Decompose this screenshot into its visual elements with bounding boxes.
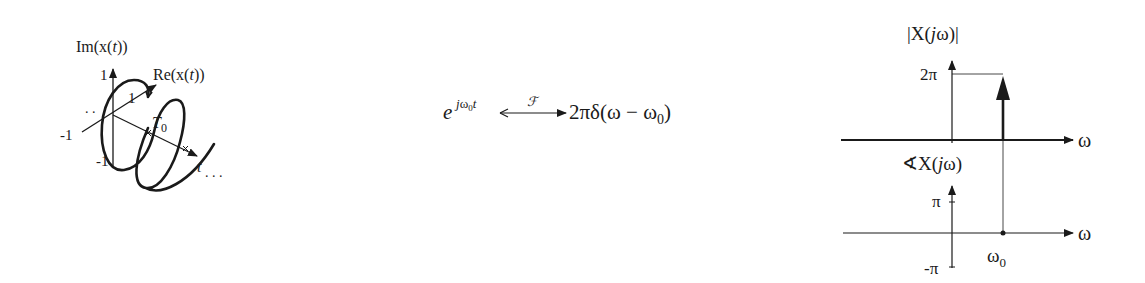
re-axis-label: Re(x(t)) xyxy=(153,66,205,84)
phase-x-label: ω xyxy=(1078,222,1091,244)
magnitude-plot: |X(jω)| 2π ω xyxy=(841,23,1091,233)
magnitude-x-label: ω xyxy=(1078,129,1091,151)
formula-exponent: jω0t xyxy=(454,96,477,113)
helix-plot: Im(x(t)) Re(x(t)) 1 -1 1 -1 T0 t . . . .… xyxy=(60,38,223,190)
im-axis-label: Im(x(t)) xyxy=(76,38,128,56)
time-axis-label: t xyxy=(197,158,202,175)
phase-title: ∢X(jω) xyxy=(902,153,962,175)
fourier-pair-formula: e jω0t ℱ 2πδ(ω − ω0) xyxy=(443,94,671,127)
im-tick-pos: 1 xyxy=(100,67,108,83)
phase-y-tick-pos: π xyxy=(932,192,941,211)
ellipsis-right: . . . xyxy=(205,165,223,180)
im-tick-neg: -1 xyxy=(96,153,109,169)
phase-plot: ∢X(jω) π -π ω ω0 xyxy=(843,153,1091,278)
magnitude-y-tick: 2π xyxy=(920,65,938,84)
phase-point-omega0 xyxy=(1001,231,1006,236)
magnitude-title: |X(jω)| xyxy=(907,23,959,45)
impulse-arrowhead xyxy=(996,76,1010,100)
ellipsis-left: . . xyxy=(85,101,96,116)
diagram-canvas: Im(x(t)) Re(x(t)) 1 -1 1 -1 T0 t . . . .… xyxy=(0,0,1145,283)
re-tick-neg: -1 xyxy=(60,127,73,143)
phase-y-tick-neg: -π xyxy=(924,259,939,278)
re-tick-pos: 1 xyxy=(128,90,136,106)
formula-lhs: e xyxy=(443,100,452,124)
phase-x-tick-omega0: ω0 xyxy=(987,245,1006,270)
formula-rhs: 2πδ(ω − ω0) xyxy=(569,100,671,127)
transform-symbol: ℱ xyxy=(527,94,540,109)
